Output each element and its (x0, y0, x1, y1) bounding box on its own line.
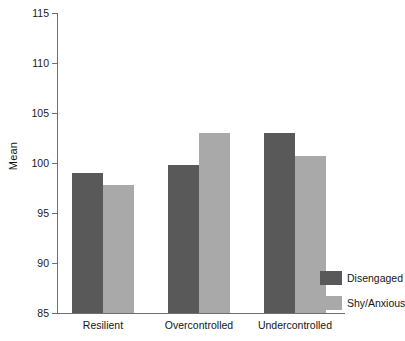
bar-resilient-shy-anxious (103, 185, 134, 313)
bar-overcontrolled-shy-anxious (199, 133, 230, 313)
y-tick-label: 90 (9, 258, 49, 269)
y-tick-mark (52, 313, 57, 314)
legend-swatch-shy-anxious (320, 296, 342, 310)
chart-legend: DisengagedShy/Anxious (320, 271, 405, 321)
bar-undercontrolled-disengaged (264, 133, 295, 313)
y-tick-label: 115 (9, 8, 49, 19)
y-axis-title: Mean (7, 126, 19, 186)
y-tick-label: 85 (9, 308, 49, 319)
bar-overcontrolled-disengaged (168, 165, 199, 313)
legend-swatch-disengaged (320, 271, 342, 285)
plot-area (57, 13, 345, 313)
legend-label: Disengaged (347, 273, 403, 284)
y-tick-label: 105 (9, 108, 49, 119)
legend-item: Disengaged (320, 271, 405, 285)
x-axis-line (57, 313, 345, 314)
legend-item: Shy/Anxious (320, 296, 405, 310)
bar-resilient-disengaged (72, 173, 103, 313)
legend-label: Shy/Anxious (347, 298, 405, 309)
y-tick-label: 100 (9, 158, 49, 169)
y-tick-label: 110 (9, 58, 49, 69)
y-tick-label: 95 (9, 208, 49, 219)
